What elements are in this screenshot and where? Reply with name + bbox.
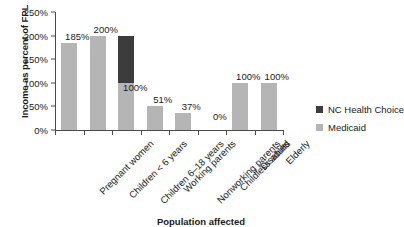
- y-tick-label: 100%: [2, 77, 55, 88]
- y-tick-label: 250%: [2, 7, 55, 18]
- y-tick-label: 0%: [2, 125, 55, 136]
- x-tick-mark: [55, 130, 56, 135]
- x-tick-mark: [226, 130, 227, 135]
- x-tick-mark: [112, 130, 113, 135]
- chart-legend: NC Health ChoiceMedicaid: [316, 104, 404, 140]
- legend-item[interactable]: NC Health Choice: [316, 104, 404, 115]
- y-tick-label: 150%: [2, 54, 55, 65]
- x-tick-mark: [84, 130, 85, 135]
- legend-label: Medicaid: [328, 122, 366, 133]
- x-tick-mark: [141, 130, 142, 135]
- legend-swatch-icon: [316, 106, 323, 113]
- y-tick-label: 200%: [2, 30, 55, 41]
- bar-segment-medicaid[interactable]: [232, 83, 248, 130]
- bar-segment-medicaid[interactable]: [175, 113, 191, 130]
- bar-segment-nc-health-choice[interactable]: [118, 36, 134, 83]
- legend-item[interactable]: Medicaid: [316, 122, 404, 133]
- bar-segment-medicaid[interactable]: [90, 36, 106, 130]
- bar-segment-medicaid[interactable]: [61, 43, 77, 130]
- bar-segment-medicaid[interactable]: [261, 83, 277, 130]
- legend-swatch-icon: [316, 124, 323, 131]
- bar-value-label: 100%: [257, 71, 297, 82]
- bar-5[interactable]: [175, 12, 191, 130]
- y-tick-label: 50%: [2, 101, 55, 112]
- x-tick-mark: [169, 130, 170, 135]
- x-tick-mark: [255, 130, 256, 135]
- plot-area: 0%50%100%150%200%250%185%200%100%51%37%0…: [55, 12, 283, 130]
- x-axis-title: Population affected: [0, 216, 402, 227]
- x-tick-mark: [283, 130, 284, 135]
- bar-4[interactable]: [147, 12, 163, 130]
- legend-label: NC Health Choice: [328, 104, 404, 115]
- x-tick-mark: [198, 130, 199, 135]
- bar-3[interactable]: [118, 12, 134, 130]
- bar-segment-medicaid[interactable]: [147, 106, 163, 130]
